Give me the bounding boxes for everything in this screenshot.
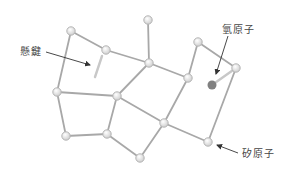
bond-line — [117, 63, 149, 96]
bond-line — [57, 92, 66, 136]
bond-line — [140, 123, 164, 158]
silicon-atom-node — [67, 27, 75, 35]
bond-line — [57, 31, 71, 92]
dangling-bond-line — [95, 56, 102, 77]
silicon-atom-node — [103, 130, 111, 138]
silicon-atom-node — [62, 132, 70, 140]
bond-line — [188, 42, 198, 78]
dangling-bond-label: 懸鍵 — [20, 46, 42, 58]
hydrogen-atom-node — [208, 81, 217, 90]
silicon-atom-node — [204, 138, 212, 146]
bond-line — [106, 50, 149, 63]
silicon-atom-node — [194, 38, 202, 46]
silicon-atom-node — [53, 88, 61, 96]
silicon-arrow — [217, 145, 238, 153]
silicon-atom-label: 矽原子 — [242, 148, 275, 160]
bond-line — [149, 63, 188, 78]
bond-line — [148, 20, 149, 63]
bond-line — [164, 123, 208, 142]
hydrogen-atom-label: 氫原子 — [222, 24, 255, 36]
dangling-bond-stub — [95, 56, 102, 77]
silicon-atom-node — [145, 59, 153, 67]
bonds-layer — [57, 20, 236, 158]
silicon-atom-node — [232, 64, 240, 72]
silicon-atom-node — [102, 46, 110, 54]
bond-line — [107, 134, 140, 158]
silicon-atom-node — [113, 92, 121, 100]
bond-line — [117, 96, 164, 123]
bond-line — [198, 42, 236, 68]
bond-line — [107, 96, 117, 134]
silicon-atom-node — [136, 154, 144, 162]
dangling-bond-arrow — [46, 52, 90, 65]
bond-line — [71, 31, 106, 50]
silicon-atom-node — [144, 16, 152, 24]
silicon-atom-node — [184, 74, 192, 82]
bond-line — [66, 134, 107, 136]
bond-line — [57, 92, 117, 96]
bond-line — [164, 78, 188, 123]
silicon-atom-node — [160, 119, 168, 127]
hydrogen-atom — [208, 81, 217, 90]
